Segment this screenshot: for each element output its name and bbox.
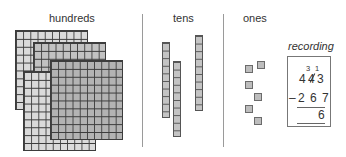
one-cube-5 bbox=[245, 105, 253, 113]
minus-sign: – bbox=[289, 91, 297, 105]
one-cube-6 bbox=[254, 117, 262, 125]
regroup-tens-value: 3 bbox=[306, 64, 310, 73]
one-cube-1 bbox=[245, 65, 253, 73]
regroup-ones-carry: 1 bbox=[315, 64, 319, 73]
divider-hundreds-tens bbox=[142, 14, 143, 147]
recording-title: recording bbox=[288, 40, 334, 52]
one-cube-2 bbox=[257, 61, 265, 69]
minuend-ones-digit: 3 bbox=[317, 72, 325, 86]
heading-ones: ones bbox=[243, 12, 267, 24]
one-cube-4 bbox=[254, 93, 262, 101]
answer-value: 6 bbox=[318, 108, 326, 122]
one-cube-3 bbox=[245, 81, 253, 89]
bottom-rule bbox=[297, 123, 325, 124]
subtrahend: 2 6 7 bbox=[298, 91, 330, 105]
ten-rod-2 bbox=[173, 61, 181, 137]
divider-tens-ones bbox=[223, 14, 224, 147]
ten-rod-1 bbox=[162, 42, 170, 118]
heading-tens: tens bbox=[173, 12, 194, 24]
minuend-hundreds-digit: 4 bbox=[299, 72, 307, 86]
hundred-flat-4 bbox=[50, 60, 123, 140]
heading-hundreds: hundreds bbox=[49, 12, 95, 24]
ten-rod-3 bbox=[195, 35, 203, 111]
